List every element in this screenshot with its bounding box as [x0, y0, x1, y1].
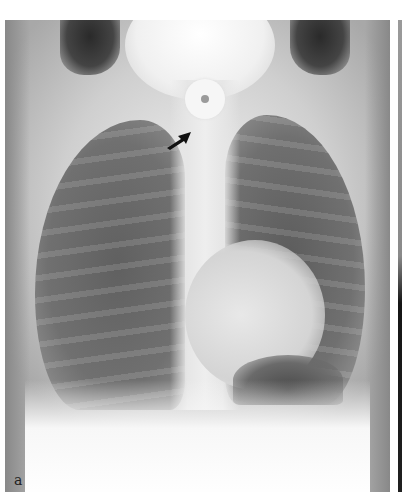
coin-center-hole — [201, 95, 209, 103]
abdomen — [25, 380, 370, 492]
chest-radiograph — [5, 20, 390, 492]
panel-label: a — [14, 472, 22, 488]
right-axilla — [60, 20, 120, 75]
adjacent-panel-edge — [398, 20, 402, 492]
arrow-icon — [165, 130, 193, 150]
left-axilla — [290, 20, 350, 75]
foreign-body-coin — [185, 79, 225, 119]
